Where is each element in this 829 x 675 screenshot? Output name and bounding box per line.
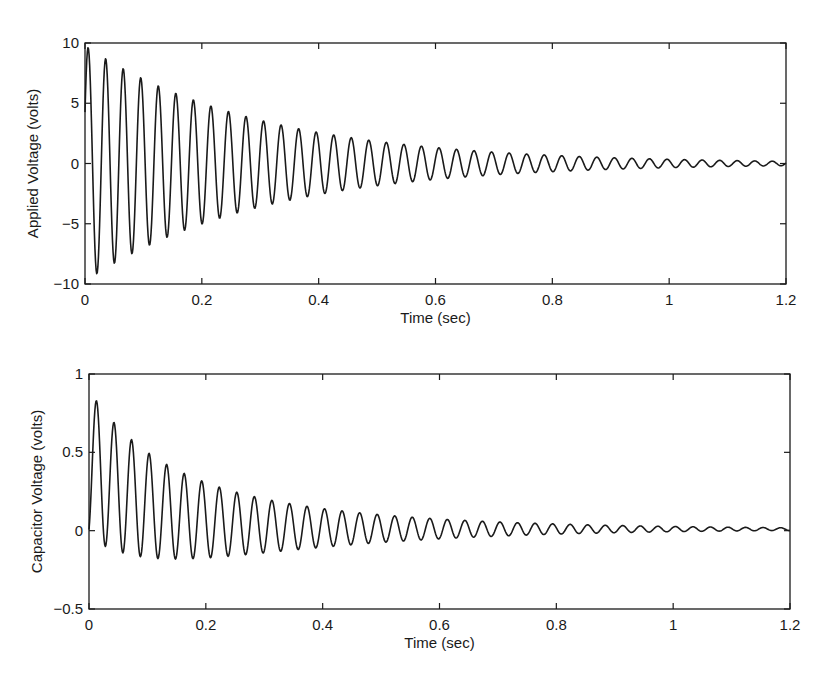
y-tick-label: 0	[75, 522, 83, 539]
x-tick-label: 1	[669, 616, 677, 633]
y-tick-label: 1	[75, 365, 83, 382]
x-tick-label: 1	[665, 291, 673, 308]
applied-voltage-chart: 00.20.40.60.811.2−10−50510Time (sec)Appl…	[24, 34, 796, 326]
y-tick-label: −5	[62, 215, 79, 232]
x-tick-label: 0.4	[308, 291, 329, 308]
x-tick-label: 0	[81, 291, 89, 308]
figure: 00.20.40.60.811.2−10−50510Time (sec)Appl…	[0, 0, 829, 675]
y-axis-label: Capacitor Voltage (volts)	[28, 410, 45, 573]
x-axis-label: Time (sec)	[400, 309, 470, 326]
capacitor-voltage-chart: 00.20.40.60.811.2−0.500.51Time (sec)Capa…	[28, 365, 800, 651]
axes-frame	[89, 374, 790, 609]
y-tick-label: 10	[62, 34, 79, 51]
y-tick-label: 0.5	[62, 443, 83, 460]
y-tick-label: −10	[54, 275, 79, 292]
y-tick-label: −0.5	[53, 600, 83, 617]
x-tick-label: 0.8	[546, 616, 567, 633]
x-tick-label: 0.2	[195, 616, 216, 633]
x-tick-label: 1.2	[780, 616, 801, 633]
x-axis-label: Time (sec)	[404, 634, 474, 651]
figure-canvas: 00.20.40.60.811.2−10−50510Time (sec)Appl…	[0, 0, 829, 675]
x-tick-label: 0	[85, 616, 93, 633]
data-line	[85, 48, 786, 274]
y-tick-label: 5	[71, 94, 79, 111]
x-tick-label: 0.6	[429, 616, 450, 633]
x-tick-label: 0.6	[425, 291, 446, 308]
y-axis-label: Applied Voltage (volts)	[24, 89, 41, 238]
data-line	[89, 401, 790, 559]
x-tick-label: 0.8	[542, 291, 563, 308]
x-tick-label: 0.4	[312, 616, 333, 633]
x-tick-label: 0.2	[191, 291, 212, 308]
x-tick-label: 1.2	[776, 291, 797, 308]
y-tick-label: 0	[71, 155, 79, 172]
